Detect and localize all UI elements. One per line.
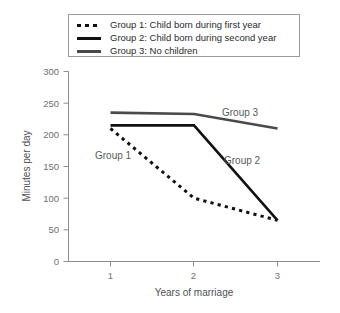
annotation-group-3: Group 3 — [222, 107, 259, 118]
line-chart: 300 250 200 150 100 50 0 Minutes per day… — [0, 0, 340, 313]
annotation-group-1: Group 1 — [95, 150, 132, 161]
y-tick-label-50: 50 — [48, 224, 59, 235]
chart-page: Group 1: Child born during first year Gr… — [0, 0, 340, 313]
y-tick-label-0: 0 — [54, 256, 59, 267]
y-tick-label-100: 100 — [43, 193, 59, 204]
x-axis-title: Years of marriage — [155, 287, 234, 298]
series-line-group-1 — [111, 129, 278, 221]
x-tick-label-3: 3 — [275, 270, 280, 281]
y-axis-title: Minutes per day — [21, 130, 32, 201]
y-tick-label-200: 200 — [43, 129, 59, 140]
y-tick-label-150: 150 — [43, 161, 59, 172]
series-line-group-2 — [111, 125, 278, 220]
annotation-group-2: Group 2 — [224, 155, 261, 166]
x-tick-label-2: 2 — [191, 270, 196, 281]
y-axis-ticks — [64, 72, 69, 262]
y-tick-label-300: 300 — [43, 66, 59, 77]
x-axis-ticks — [111, 262, 278, 267]
x-tick-label-1: 1 — [108, 270, 113, 281]
y-tick-label-250: 250 — [43, 98, 59, 109]
